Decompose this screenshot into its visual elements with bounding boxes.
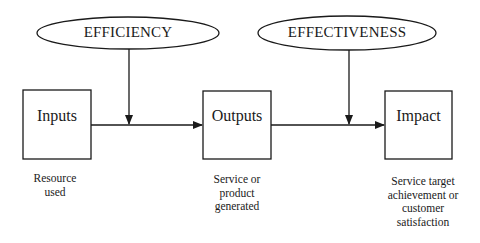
caption-line: used bbox=[5, 186, 105, 200]
outputs-box bbox=[203, 91, 271, 159]
caption-line: Service target bbox=[373, 175, 473, 189]
caption-line: generated bbox=[187, 200, 287, 214]
impact-caption: Service target achievement or customer s… bbox=[373, 175, 473, 229]
outputs-caption: Service or product generated bbox=[187, 173, 287, 214]
inputs-caption: Resource used bbox=[5, 172, 105, 199]
impact-box bbox=[385, 91, 452, 159]
caption-line: achievement or bbox=[373, 189, 473, 203]
efficiency-label: EFFICIENCY bbox=[37, 24, 219, 41]
caption-line: Service or bbox=[187, 173, 287, 187]
impact-label: Impact bbox=[385, 107, 452, 125]
outputs-label: Outputs bbox=[203, 107, 271, 125]
inputs-label: Inputs bbox=[23, 107, 91, 125]
effectiveness-label: EFFECTIVENESS bbox=[258, 24, 436, 41]
caption-line: product bbox=[187, 187, 287, 201]
caption-line: satisfaction bbox=[373, 216, 473, 230]
caption-line: customer bbox=[373, 202, 473, 216]
caption-line: Resource bbox=[5, 172, 105, 186]
